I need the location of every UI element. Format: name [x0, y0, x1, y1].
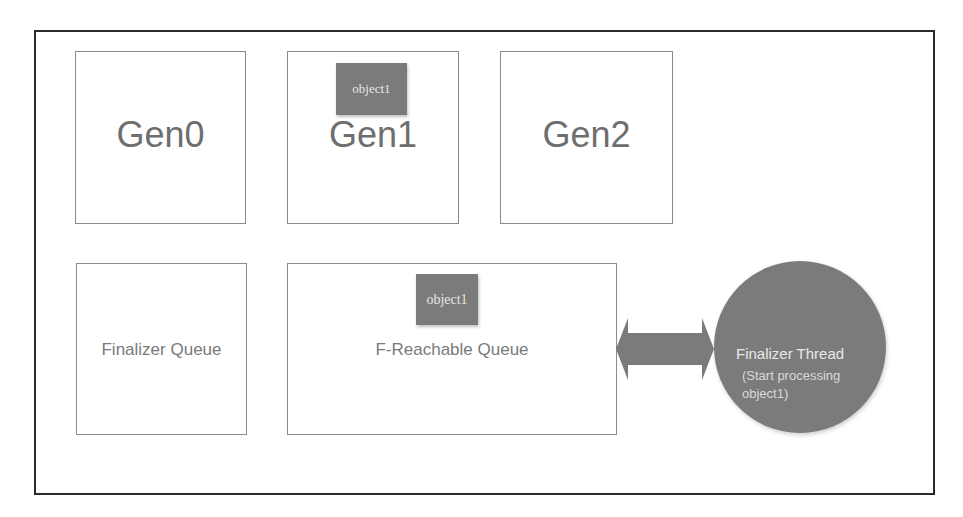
- finalizer-thread-subtitle: (Start processing object1): [742, 367, 840, 403]
- double-arrow-icon: [614, 316, 716, 382]
- finalizer-thread-title: Finalizer Thread: [736, 345, 844, 362]
- f-reachable-object1: object1: [416, 274, 478, 325]
- gen0-box: Gen0: [75, 51, 246, 224]
- gen1-box: object1 Gen1: [287, 51, 459, 224]
- f-reachable-queue-box: object1 F-Reachable Queue: [287, 263, 617, 435]
- gen1-label: Gen1: [288, 114, 458, 156]
- finalizer-thread-subtitle-line2: object1): [742, 385, 840, 403]
- gen2-box: Gen2: [500, 51, 673, 224]
- finalizer-queue-box: Finalizer Queue: [76, 263, 247, 435]
- gen0-label: Gen0: [76, 114, 245, 156]
- f-reachable-queue-label: F-Reachable Queue: [288, 340, 616, 360]
- finalizer-thread-subtitle-line1: (Start processing: [742, 367, 840, 385]
- gen2-label: Gen2: [501, 114, 672, 156]
- finalizer-thread-circle: Finalizer Thread (Start processing objec…: [714, 261, 886, 433]
- finalizer-queue-label: Finalizer Queue: [77, 340, 246, 360]
- gen1-object1: object1: [336, 63, 407, 115]
